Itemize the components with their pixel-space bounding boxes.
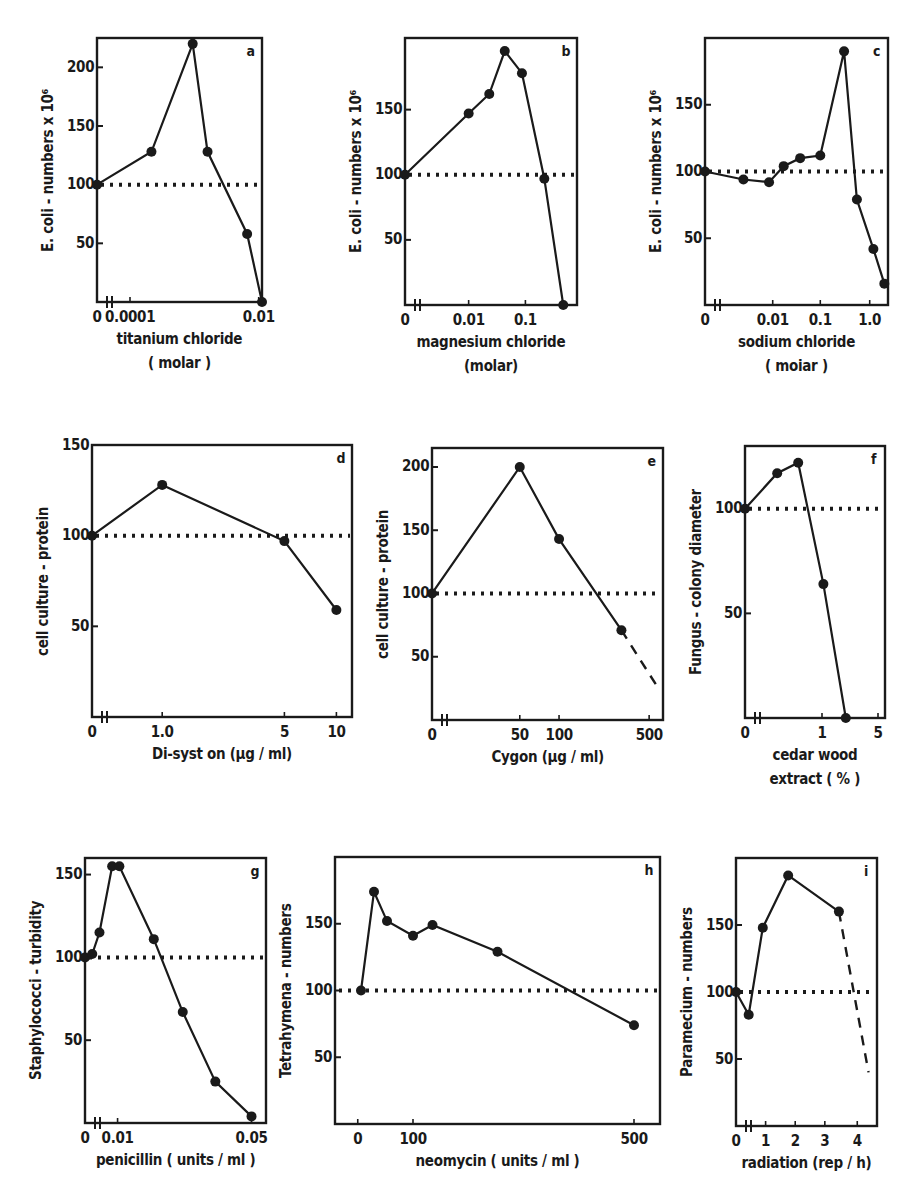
data-point-marker bbox=[242, 229, 252, 239]
y-tick-label: 150 bbox=[402, 523, 429, 538]
panel-a-plot bbox=[92, 38, 267, 308]
data-point-marker bbox=[515, 462, 525, 472]
data-point-marker bbox=[331, 605, 341, 615]
data-point-marker bbox=[428, 920, 438, 930]
y-axis-label: E. coli - numbers x 10⁶ bbox=[41, 88, 56, 251]
x-axis-unit-label: ( molar ) bbox=[148, 356, 211, 371]
data-series-line bbox=[745, 463, 846, 718]
x-axis-unit-label: extract ( % ) bbox=[770, 772, 861, 787]
data-point-marker bbox=[744, 1010, 754, 1020]
extrapolated-dashed-line bbox=[839, 912, 869, 1073]
x-tick-label: 0.01 bbox=[757, 313, 789, 328]
data-point-marker bbox=[382, 916, 392, 926]
x-axis-unit-label: ( moiar ) bbox=[765, 359, 828, 374]
data-point-marker bbox=[87, 949, 97, 959]
x-tick-label: 0.1 bbox=[809, 313, 832, 328]
y-axis-label: Fungus - colony diameter bbox=[689, 489, 704, 675]
y-tick-label: 150 bbox=[67, 119, 94, 134]
y-tick-label: 50 bbox=[684, 231, 702, 246]
panel-letter: b bbox=[562, 44, 571, 58]
plot-frame bbox=[432, 448, 663, 720]
panel-b-plot bbox=[400, 38, 577, 311]
panel-i-plot bbox=[731, 858, 877, 1132]
x-tick-label: 3 bbox=[820, 1134, 829, 1149]
x-tick-label: 0 bbox=[401, 313, 410, 328]
data-point-marker bbox=[94, 928, 104, 938]
data-point-marker bbox=[818, 579, 828, 589]
y-tick-label: 50 bbox=[411, 649, 429, 664]
x-tick-label: 1 bbox=[818, 726, 827, 741]
y-axis-label: Paramecium - numbers bbox=[680, 907, 695, 1077]
x-tick-label: 0 bbox=[701, 313, 710, 328]
panel-letter: g bbox=[251, 864, 260, 878]
x-tick-label: 0 bbox=[353, 1132, 362, 1147]
panel-letter: d bbox=[337, 451, 346, 465]
data-point-marker bbox=[146, 147, 156, 157]
data-point-marker bbox=[779, 161, 789, 171]
panel-letter: f bbox=[871, 452, 876, 466]
data-point-marker bbox=[834, 907, 844, 917]
panel-e-plot bbox=[427, 448, 663, 726]
data-point-marker bbox=[356, 986, 366, 996]
x-tick-label: 500 bbox=[621, 1132, 648, 1147]
x-tick-label: 0 bbox=[93, 310, 102, 325]
data-point-marker bbox=[210, 1077, 220, 1087]
data-point-marker bbox=[279, 536, 289, 546]
plot-frame bbox=[705, 38, 888, 305]
data-point-marker bbox=[464, 109, 474, 119]
y-axis-label: Tetrahymena - numbers bbox=[279, 903, 294, 1077]
y-tick-label: 100 bbox=[675, 164, 702, 179]
x-tick-label: 0 bbox=[81, 1131, 90, 1146]
y-tick-label: 150 bbox=[305, 916, 332, 931]
y-tick-label: 150 bbox=[62, 438, 89, 453]
x-tick-label: 50 bbox=[511, 728, 529, 743]
data-point-marker bbox=[772, 468, 782, 478]
data-point-marker bbox=[852, 195, 862, 205]
y-tick-label: 100 bbox=[375, 167, 402, 182]
y-tick-label: 50 bbox=[724, 606, 742, 621]
panel-h-plot bbox=[335, 857, 660, 1124]
y-tick-label: 150 bbox=[706, 918, 733, 933]
y-tick-label: 100 bbox=[55, 950, 82, 965]
data-point-marker bbox=[815, 150, 825, 160]
x-tick-label: 500 bbox=[636, 728, 663, 743]
panel-letter: i bbox=[864, 864, 868, 878]
figure-grid: 5010015020000.00010.01aE. coli - numbers… bbox=[0, 0, 915, 1204]
plot-frame bbox=[736, 858, 877, 1126]
x-tick-label: 1.0 bbox=[858, 313, 881, 328]
x-axis-label: Cygon (μg / ml) bbox=[492, 750, 604, 765]
data-point-marker bbox=[178, 1007, 188, 1017]
y-axis-label: E. coli - numbers x 10⁶ bbox=[649, 90, 664, 253]
y-tick-label: 100 bbox=[62, 528, 89, 543]
y-tick-label: 150 bbox=[55, 867, 82, 882]
data-point-marker bbox=[539, 174, 549, 184]
y-tick-label: 50 bbox=[715, 1052, 733, 1067]
data-point-marker bbox=[157, 480, 167, 490]
panel-letter: a bbox=[247, 44, 255, 58]
data-point-marker bbox=[868, 244, 878, 254]
data-point-marker bbox=[629, 1020, 639, 1030]
y-tick-label: 200 bbox=[402, 459, 429, 474]
extrapolated-dashed-line bbox=[621, 630, 658, 688]
data-point-marker bbox=[114, 861, 124, 871]
plot-frame bbox=[405, 38, 577, 305]
data-point-marker bbox=[558, 300, 568, 310]
x-tick-label: 4 bbox=[853, 1134, 862, 1149]
data-point-marker bbox=[369, 887, 379, 897]
data-point-marker bbox=[738, 175, 748, 185]
panel-letter: c bbox=[873, 44, 880, 58]
data-point-marker bbox=[203, 147, 213, 157]
data-series-line bbox=[705, 51, 884, 283]
data-series-line bbox=[432, 467, 621, 630]
panel-f-plot bbox=[740, 446, 885, 724]
y-tick-label: 150 bbox=[375, 102, 402, 117]
data-point-marker bbox=[257, 297, 267, 307]
data-point-marker bbox=[517, 68, 527, 78]
x-tick-label: 0.0001 bbox=[105, 310, 155, 325]
x-axis-label: Di-syst on (μg / ml) bbox=[152, 747, 292, 762]
x-tick-label: 5 bbox=[280, 725, 289, 740]
x-tick-label: 0.1 bbox=[514, 313, 537, 328]
x-axis-label: neomycin ( units / ml ) bbox=[416, 1154, 580, 1169]
y-tick-label: 50 bbox=[64, 1033, 82, 1048]
data-point-marker bbox=[554, 534, 564, 544]
